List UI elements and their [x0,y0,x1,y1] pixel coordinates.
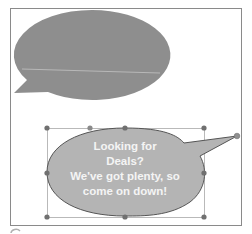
resize-handle-top-right[interactable] [201,125,206,130]
resize-handle-top[interactable] [122,125,127,130]
resize-handle-right[interactable] [201,170,206,175]
tail-tip-handle[interactable] [234,133,240,139]
resize-handle-bottom-right[interactable] [201,214,206,219]
slide-canvas[interactable]: Looking for Deals? We've got plenty, so … [0,0,252,234]
resize-handle-bottom[interactable] [122,214,127,219]
callout-text-line-2[interactable]: Deals? [106,155,144,167]
callout-text-line-4[interactable]: come on down! [83,185,167,197]
resize-handle-top-left[interactable] [44,125,49,130]
adjust-handle[interactable] [87,125,92,130]
callout-text-line-3[interactable]: We've got plenty, so [70,170,180,182]
callout-text-line-1[interactable]: Looking for [93,140,157,152]
top-callout-shape[interactable] [14,10,171,100]
top-callout-body[interactable] [14,10,171,100]
resize-handle-left[interactable] [44,170,49,175]
partial-icon [11,229,20,233]
resize-handle-bottom-left[interactable] [44,214,49,219]
